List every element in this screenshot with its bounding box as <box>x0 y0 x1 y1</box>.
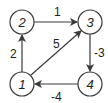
node-3-label: 3 <box>86 15 94 30</box>
directed-graph: 2 1 5 -3 -4 1 2 3 4 <box>0 0 108 103</box>
edge-weight-1-2: 2 <box>10 47 17 61</box>
edge-weight-2-3: 1 <box>54 5 61 19</box>
node-2-label: 2 <box>17 15 26 30</box>
edge-weight-4-1: -4 <box>51 90 62 103</box>
node-1-label: 1 <box>18 77 25 92</box>
node-4: 4 <box>78 72 102 96</box>
node-3: 3 <box>78 10 102 34</box>
edge-weight-3-4: -3 <box>94 46 105 60</box>
node-1: 1 <box>10 72 34 96</box>
node-2: 2 <box>10 10 34 34</box>
edge-weight-1-3: 5 <box>53 37 60 51</box>
node-4-label: 4 <box>86 77 93 92</box>
